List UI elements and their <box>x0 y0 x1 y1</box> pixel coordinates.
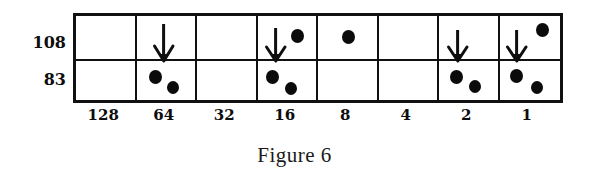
cell-2-top <box>439 16 500 59</box>
column-header-16: 16 <box>255 106 316 124</box>
column-header-2: 2 <box>436 106 497 124</box>
column-header-32: 32 <box>194 106 255 124</box>
cell-16-top <box>258 16 319 59</box>
cell-64-top <box>137 16 198 59</box>
column-headers: 128 64 32 16 8 4 2 1 <box>73 106 563 128</box>
cell-32-bottom <box>197 61 258 104</box>
cell-128-top <box>76 16 137 59</box>
counter-dot <box>291 29 304 43</box>
cell-1-top <box>500 16 561 59</box>
cell-2-bottom <box>439 61 500 104</box>
column-header-1: 1 <box>497 106 558 124</box>
counter-dot <box>167 81 179 94</box>
cell-128-bottom <box>76 61 137 104</box>
counter-dot <box>469 80 481 93</box>
column-header-128: 128 <box>73 106 134 124</box>
row-label-top: 108 <box>6 33 66 52</box>
cell-8-bottom <box>318 61 379 104</box>
counter-dot <box>266 70 279 84</box>
cell-32-top <box>197 16 258 59</box>
grid-cells <box>76 16 560 100</box>
cell-1-bottom <box>500 61 561 104</box>
cell-16-bottom <box>258 61 319 104</box>
counter-dot <box>149 70 162 84</box>
column-header-4: 4 <box>376 106 437 124</box>
counter-dot <box>531 81 543 94</box>
cell-4-top <box>379 16 440 59</box>
figure-caption: Figure 6 <box>0 143 589 168</box>
counter-dot <box>285 82 297 95</box>
column-header-64: 64 <box>134 106 195 124</box>
counter-dot <box>342 30 355 44</box>
place-value-grid <box>73 13 563 103</box>
counter-dot <box>536 23 549 37</box>
column-header-8: 8 <box>315 106 376 124</box>
cell-4-bottom <box>379 61 440 104</box>
cell-8-top <box>318 16 379 59</box>
row-label-bottom: 83 <box>6 70 66 89</box>
counter-dot <box>450 70 463 84</box>
counter-dot <box>510 69 523 83</box>
cell-64-bottom <box>137 61 198 104</box>
